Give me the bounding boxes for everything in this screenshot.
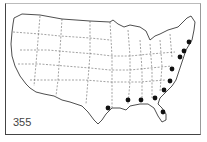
marker — [168, 79, 173, 84]
marker — [106, 106, 111, 111]
marker — [126, 98, 131, 103]
marker — [139, 98, 144, 103]
map-number-label: 355 — [13, 116, 31, 128]
marker — [178, 55, 183, 60]
marker — [162, 88, 167, 93]
marker — [187, 40, 192, 45]
state-borders — [13, 16, 175, 108]
marker — [161, 110, 166, 115]
marker — [153, 96, 158, 101]
marker — [182, 49, 187, 54]
markers — [106, 40, 192, 115]
marker — [170, 67, 175, 72]
